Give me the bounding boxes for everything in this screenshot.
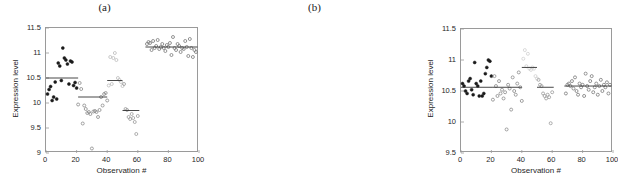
data-point	[466, 92, 469, 95]
y-tick-label: 9	[3, 148, 41, 157]
data-point	[74, 81, 77, 84]
y-tick-label: 9.5	[3, 123, 41, 132]
data-point	[575, 90, 578, 93]
data-point	[54, 81, 57, 84]
data-point	[522, 57, 525, 60]
data-point	[60, 79, 63, 82]
data-point	[97, 116, 100, 119]
y-tick-label: 10	[3, 98, 41, 107]
data-point	[502, 97, 505, 100]
data-point	[72, 84, 75, 87]
data-point	[472, 93, 475, 96]
data-point	[592, 91, 595, 94]
data-point	[605, 81, 608, 84]
data-point	[55, 98, 58, 101]
data-point	[545, 97, 548, 100]
data-point	[549, 122, 552, 125]
data-point	[90, 147, 93, 150]
data-point	[156, 39, 159, 42]
data-point	[61, 47, 64, 50]
data-point	[132, 117, 135, 120]
y-tick-label: 10	[418, 117, 456, 126]
panel-b-plot-area	[460, 28, 612, 152]
data-point	[135, 133, 138, 136]
data-point	[106, 99, 109, 102]
data-point	[589, 80, 592, 83]
data-point	[583, 94, 586, 97]
data-point	[64, 59, 67, 62]
data-point	[58, 65, 61, 68]
data-point	[83, 104, 86, 107]
data-point	[607, 92, 610, 95]
data-point	[584, 72, 587, 75]
data-point	[520, 99, 523, 102]
data-point	[599, 78, 602, 81]
data-point	[80, 88, 83, 91]
data-point	[496, 94, 499, 97]
x-tick-label: 20	[486, 155, 494, 164]
data-point	[67, 83, 70, 86]
data-point	[523, 49, 526, 52]
x-tick-label: 40	[517, 155, 525, 164]
data-point	[66, 63, 69, 66]
data-point	[587, 88, 590, 91]
x-tick-label: 0	[458, 155, 462, 164]
data-point	[516, 82, 519, 85]
data-point	[57, 62, 60, 65]
data-point	[478, 94, 481, 97]
data-point	[574, 76, 577, 79]
data-point	[49, 85, 52, 88]
data-point	[152, 40, 155, 43]
data-point	[75, 87, 78, 90]
data-point	[98, 109, 101, 112]
data-point	[171, 36, 174, 39]
data-point	[526, 52, 529, 55]
panel-a-plot-area	[45, 27, 198, 152]
panel-a-x-axis-title: Observation #	[97, 166, 147, 175]
data-point	[564, 92, 567, 95]
data-point	[491, 98, 494, 101]
data-point	[501, 88, 504, 91]
data-point	[488, 60, 491, 63]
data-point	[473, 61, 476, 64]
data-point	[136, 115, 139, 118]
data-point	[46, 93, 49, 96]
data-point	[590, 75, 593, 78]
data-point	[510, 108, 513, 111]
data-point	[161, 43, 164, 46]
panel-b: (b) 9.51010.51111.5 020406080100 Observa…	[210, 0, 419, 185]
panel-b-y-axis-title: Expression level	[426, 51, 435, 127]
data-point	[164, 50, 167, 53]
panel-a-data-layer	[46, 28, 197, 151]
data-point	[490, 75, 493, 78]
data-point	[130, 113, 133, 116]
y-tick-label: 11	[3, 48, 41, 57]
data-point	[513, 90, 516, 93]
y-tick-label: 9.5	[418, 148, 456, 157]
data-point	[570, 80, 573, 83]
data-point	[507, 83, 510, 86]
data-point	[485, 66, 488, 69]
data-point	[168, 42, 171, 45]
data-point	[51, 99, 54, 102]
x-tick-label: 100	[606, 155, 618, 164]
data-point	[514, 93, 517, 96]
data-point	[184, 40, 187, 43]
x-tick-label: 80	[163, 155, 171, 164]
data-point	[71, 61, 74, 64]
data-point	[52, 96, 55, 99]
x-tick-label: 40	[102, 155, 110, 164]
data-point	[84, 108, 87, 111]
data-point	[596, 93, 599, 96]
x-tick-label: 60	[133, 155, 141, 164]
data-point	[505, 128, 508, 131]
data-point	[113, 52, 116, 55]
x-tick-label: 100	[192, 155, 205, 164]
data-point	[498, 80, 501, 83]
x-tick-label: 20	[71, 155, 79, 164]
data-point	[595, 82, 598, 85]
x-tick-label: 0	[43, 155, 47, 164]
data-point	[601, 90, 604, 93]
data-point	[150, 49, 153, 52]
